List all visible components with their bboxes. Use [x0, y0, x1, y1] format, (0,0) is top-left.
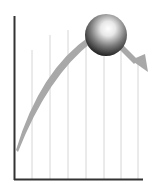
rising-curve — [16, 36, 92, 152]
ball-icon — [85, 14, 127, 56]
peak-diagram — [0, 0, 154, 189]
gridlines — [32, 30, 138, 179]
